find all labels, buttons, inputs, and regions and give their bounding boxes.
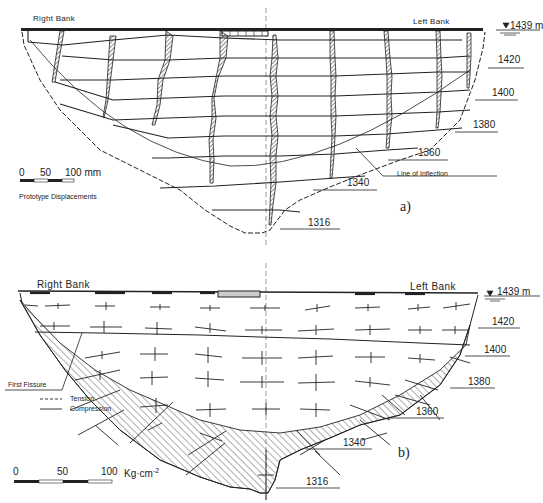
scale-tick-50: 50 — [57, 467, 68, 477]
spillway — [218, 291, 260, 297]
scale-tick-100: 100 — [101, 467, 118, 477]
crest-elevation-label: 1439 m — [497, 287, 530, 297]
elevation-1380: 1380 — [473, 120, 495, 130]
arch-displacement-lines — [28, 30, 470, 212]
right-bank-label: Right Bank — [33, 15, 75, 23]
scale-caption: Prototype Displacements — [19, 193, 97, 200]
elevation-1420: 1420 — [492, 317, 514, 327]
elevation-1316: 1316 — [308, 218, 330, 228]
right-bank-label: Right Bank — [37, 280, 90, 290]
panel-a-tag: a) — [400, 200, 411, 214]
displacement-diagram — [0, 0, 540, 255]
tension-legend-label: Tension — [70, 395, 94, 402]
elevation-1420: 1420 — [498, 55, 520, 65]
crest-elevation-label: 1439 m — [510, 21, 543, 31]
elevation-1340: 1340 — [347, 178, 369, 188]
spillway — [222, 31, 268, 36]
scale-unit-exponent: -2 — [153, 467, 159, 474]
scale-tick-50: 50 — [40, 168, 51, 178]
elevation-1316: 1316 — [306, 477, 328, 487]
line-of-inflection-label: Line of Inflection — [397, 170, 448, 177]
left-bank-label: Left Bank — [413, 18, 450, 26]
arch-joint-line — [35, 332, 470, 345]
panel-a-displacements: Right Bank Left Bank 1439 m 1420 1400 13… — [0, 0, 540, 255]
elevation-1400: 1400 — [484, 345, 506, 355]
panel-b-tag: b) — [398, 446, 410, 460]
elevation-1400: 1400 — [492, 88, 514, 98]
scale-tick-0: 0 — [13, 467, 19, 477]
panel-b-stresses: Right Bank Left Bank 1439 m 1420 1400 13… — [0, 255, 540, 503]
first-fissure-label: First Fissure — [8, 381, 47, 388]
compression-legend-label: Compression — [70, 405, 111, 412]
scale-bar-stress — [14, 480, 112, 483]
scale-tick-100: 100 mm — [65, 168, 101, 178]
foundation-profile — [22, 32, 485, 233]
scale-bar-displacement — [20, 179, 74, 182]
stress-diagram — [0, 255, 540, 503]
scale-unit-text: Kg·cm — [124, 468, 153, 479]
elevation-1360: 1360 — [418, 148, 440, 158]
elevation-1340: 1340 — [343, 438, 365, 448]
scale-tick-0: 0 — [19, 168, 25, 178]
left-bank-label: Left Bank — [410, 282, 456, 292]
scale-unit: Kg·cm-2 — [124, 467, 159, 479]
elevation-1360: 1360 — [416, 407, 438, 417]
elevation-1380: 1380 — [468, 377, 490, 387]
